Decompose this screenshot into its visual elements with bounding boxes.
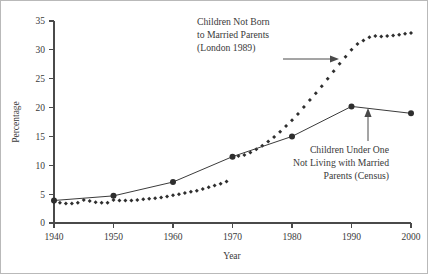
data-point-marker: [373, 34, 377, 38]
y-tick-label: 10: [36, 161, 46, 171]
data-point-marker: [308, 98, 312, 102]
data-point-marker: [70, 201, 74, 205]
data-point-marker: [278, 130, 282, 134]
data-point-marker: [189, 190, 193, 194]
data-point-marker: [349, 103, 355, 109]
data-point-marker: [391, 33, 395, 37]
arrow-to-census-series: [364, 108, 371, 141]
data-point-marker: [332, 69, 336, 73]
data-point-marker: [100, 201, 104, 205]
data-point-marker: [117, 198, 121, 202]
data-point-marker: [355, 42, 359, 46]
data-point-marker: [141, 197, 145, 201]
data-point-marker: [165, 194, 169, 198]
data-point-marker: [106, 201, 110, 205]
data-point-marker: [290, 118, 294, 122]
x-tick-label: 1970: [223, 232, 242, 242]
data-point-marker: [183, 191, 187, 195]
arrow-to-london-series: [283, 55, 339, 62]
data-point-marker: [409, 31, 413, 35]
data-point-marker: [338, 62, 342, 66]
annotation-london-1989: Children Not Born to Married Parents (Lo…: [197, 15, 270, 55]
x-axis-title: Year: [223, 251, 241, 261]
y-tick-label: 15: [36, 132, 46, 142]
x-axis-ticks: 1940195019601970198019902000: [45, 223, 421, 242]
data-point-marker: [230, 154, 236, 160]
data-point-marker: [397, 33, 401, 37]
data-point-marker: [350, 48, 354, 52]
data-point-marker: [408, 110, 414, 116]
data-point-marker: [302, 105, 306, 109]
data-point-marker: [361, 39, 365, 43]
data-point-marker: [159, 196, 163, 200]
data-point-marker: [153, 196, 157, 200]
data-point-marker: [147, 197, 151, 201]
y-tick-label: 0: [40, 218, 45, 228]
x-tick-label: 1960: [164, 232, 183, 242]
y-tick-label: 35: [36, 16, 46, 26]
data-point-marker: [177, 192, 181, 196]
data-point-marker: [385, 34, 389, 38]
x-tick-label: 1990: [342, 232, 361, 242]
data-point-marker: [129, 198, 133, 202]
y-axis-ticks: 05101520253035: [36, 16, 55, 228]
data-point-marker: [367, 35, 371, 39]
data-point-marker: [201, 187, 205, 191]
data-point-marker: [213, 183, 217, 187]
data-point-marker: [207, 185, 211, 189]
data-point-marker: [320, 84, 324, 88]
x-tick-label: 1980: [283, 232, 302, 242]
data-point-marker: [94, 200, 98, 204]
data-point-marker: [289, 133, 295, 139]
data-point-marker: [123, 198, 127, 202]
x-tick-label: 2000: [402, 232, 421, 242]
data-point-marker: [88, 199, 92, 203]
data-point-marker: [314, 91, 318, 95]
y-tick-label: 20: [36, 103, 46, 113]
data-point-marker: [296, 112, 300, 116]
data-point-marker: [326, 77, 330, 81]
data-point-marker: [51, 197, 57, 203]
y-tick-label: 5: [40, 190, 45, 200]
annotation-census: Children Under One Not Living with Marri…: [253, 143, 389, 183]
chart-figure: 05101520253035 1940195019601970198019902…: [0, 0, 428, 274]
y-tick-label: 25: [36, 74, 46, 84]
x-tick-label: 1940: [45, 232, 64, 242]
data-point-marker: [111, 193, 117, 199]
data-point-marker: [135, 198, 139, 202]
y-tick-label: 30: [36, 45, 46, 55]
y-axis-title: Percentage: [11, 101, 21, 143]
data-point-marker: [58, 201, 62, 205]
data-point-marker: [195, 189, 199, 193]
data-point-marker: [64, 201, 68, 205]
data-point-marker: [170, 179, 176, 185]
data-point-marker: [379, 35, 383, 39]
data-point-marker: [284, 124, 288, 128]
data-point-marker: [272, 135, 276, 139]
data-point-marker: [76, 201, 80, 205]
data-point-marker: [171, 193, 175, 197]
x-tick-label: 1950: [104, 232, 123, 242]
data-point-marker: [219, 182, 223, 186]
data-point-marker: [344, 55, 348, 59]
data-point-marker: [225, 179, 229, 183]
data-point-marker: [403, 32, 407, 36]
